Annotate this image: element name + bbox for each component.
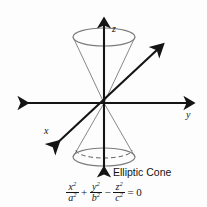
equation-term-z: z2 c2: [113, 182, 125, 203]
x-axis-line: [54, 49, 158, 146]
equation-term-z-denominator: c2: [113, 193, 125, 203]
equation-term-x-numerator-exponent: 2: [73, 180, 76, 187]
equation-term-y-denominator-exponent: 2: [97, 191, 100, 198]
equation-term-y-denominator: b2: [90, 193, 102, 203]
equation-term-x-denominator: a2: [66, 193, 78, 203]
equation-term-x: x2 a2: [66, 182, 78, 203]
equation-term-z-numerator-exponent: 2: [119, 180, 122, 187]
surface-name-label: Elliptic Cone: [113, 166, 172, 178]
upper-nappe-right-generator: [104, 37, 135, 103]
diagram-canvas: z y x Elliptic Cone: [0, 0, 207, 207]
surface-equation: x2 a2 + y2 b2 − z2 c2 =0: [0, 182, 207, 203]
z-axis-label: z: [111, 23, 116, 34]
x-axis-label: x: [43, 125, 49, 136]
equation-operator-plus: +: [81, 187, 87, 198]
elliptic-cone-figure: z y x Elliptic Cone x2 a2 + y2 b2 − z2 c…: [0, 0, 207, 207]
y-axis-label: y: [185, 109, 191, 120]
equation-term-x-denominator-exponent: 2: [73, 191, 76, 198]
equation-term-y-numerator-exponent: 2: [97, 180, 100, 187]
axes-group: [22, 24, 188, 173]
equation-term-y: y2 b2: [90, 182, 102, 203]
upper-nappe-left-generator: [73, 37, 104, 103]
equation-right-hand-side: 0: [136, 187, 142, 198]
equation-equals-sign: =: [127, 187, 133, 198]
equation-operator-minus: −: [105, 187, 111, 198]
equation-term-z-denominator-exponent: 2: [120, 191, 123, 198]
